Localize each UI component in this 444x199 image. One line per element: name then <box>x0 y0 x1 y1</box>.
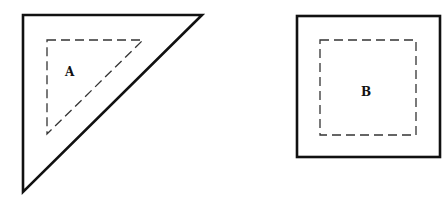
shape-b-group: B <box>297 16 440 157</box>
shape-a-label: A <box>64 65 75 79</box>
outer-triangle <box>23 15 202 192</box>
shapes-diagram: A B <box>0 0 444 199</box>
shape-a-group: A <box>23 15 202 192</box>
shape-b-label: B <box>361 85 371 99</box>
